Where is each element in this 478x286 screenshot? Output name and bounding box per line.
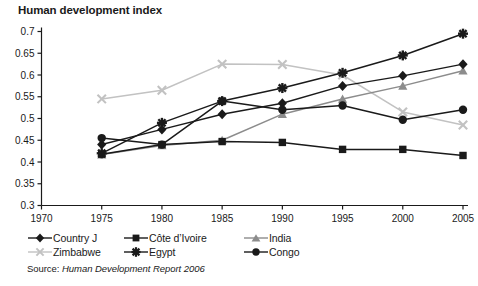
x-axis-tick-label: 2005 [452,213,475,224]
chart-legend: Country J Côte d’Ivoire India [27,231,457,259]
chart-series [98,138,467,159]
circle-marker-icon [243,246,269,258]
legend-row: Country J Côte d’Ivoire India [27,231,457,245]
legend-item-egypt: Egypt [123,246,243,258]
chart-series [97,59,467,149]
legend-label: Egypt [149,246,175,258]
x-axis-tick-label: 1990 [271,213,294,224]
y-axis-tick-label: 0.65 [15,48,35,59]
legend-label: Zimbabwe [53,246,101,258]
legend-label: Côte d’Ivoire [149,232,207,244]
x-axis-tick-label: 1975 [91,213,114,224]
y-axis-tick-label: 0.7 [21,26,35,37]
diamond-marker-icon [27,232,53,244]
legend-item-country-j: Country J [27,232,123,244]
y-axis-tick-label: 0.3 [21,200,35,211]
source-text: Human Development Report 2006 [62,263,205,274]
legend-item-congo: Congo [243,246,343,258]
asterisk-marker-icon [123,246,149,258]
legend-label: India [269,232,291,244]
legend-item-zimbabwe: Zimbabwe [27,246,123,258]
x-axis-tick-label: 1980 [151,213,174,224]
y-axis-tick-label: 0.35 [15,178,35,189]
y-axis-tick-label: 0.6 [21,70,35,81]
chart-container: Human development index 0.30.350.40.450.… [0,0,478,286]
y-axis-tick-label: 0.5 [21,113,35,124]
y-axis-tick-label: 0.4 [21,157,35,168]
triangle-marker-icon [243,232,269,244]
y-axis-tick-label: 0.45 [15,135,35,146]
square-marker-icon [123,232,149,244]
source-prefix: Source: [27,263,62,274]
legend-item-india: India [243,232,343,244]
y-axis-tick-label: 0.55 [15,91,35,102]
x-axis-tick-label: 1995 [331,213,354,224]
legend-row: Zimbabwe Egypt [27,245,457,259]
x-axis-tick-label: 1985 [211,213,234,224]
legend-item-cote-divoire: Côte d’Ivoire [123,232,243,244]
x-marker-icon [27,246,53,258]
x-axis-tick-label: 1970 [30,213,53,224]
source-note: Source: Human Development Report 2006 [27,263,205,274]
x-axis-tick-label: 2000 [392,213,415,224]
legend-label: Congo [269,246,299,258]
legend-label: Country J [53,232,97,244]
